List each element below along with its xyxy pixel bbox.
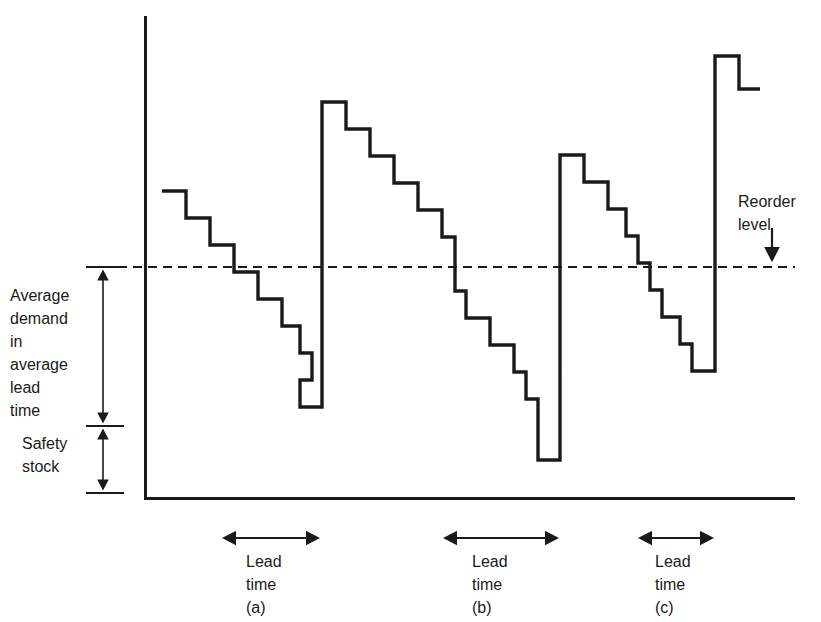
lead-time-a-label: Lead time (a) — [246, 550, 282, 619]
chart-canvas — [0, 0, 821, 622]
inventory-sawtooth-chart: Average demand in average lead time Safe… — [0, 0, 821, 622]
left-annotation-ticks — [86, 267, 124, 493]
stock-level-sawtooth — [162, 56, 760, 460]
safety-stock-label: Safety stock — [22, 432, 67, 478]
chart-axes — [144, 16, 795, 499]
reorder-level-label: Reorder level — [738, 190, 796, 236]
average-demand-label: Average demand in average lead time — [10, 284, 69, 422]
lead-time-b-label: Lead time (b) — [472, 550, 508, 619]
lead-time-c-label: Lead time (c) — [655, 550, 691, 619]
